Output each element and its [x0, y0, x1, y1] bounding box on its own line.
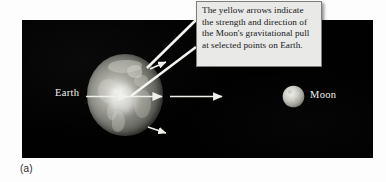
leader-line-top: [147, 20, 196, 68]
callout-box: The yellow arrows indicate the strength …: [196, 1, 322, 67]
arrow-bottom: [148, 127, 166, 133]
figure-caption: (a): [20, 163, 33, 174]
leader-line-center: [131, 47, 196, 96]
moon-label: Moon: [310, 89, 336, 100]
gravity-arrows: [86, 62, 222, 133]
earth-label: Earth: [55, 87, 79, 98]
callout-leader-lines: [131, 20, 196, 96]
figure-root: The yellow arrows indicate the strength …: [0, 0, 386, 182]
moon-body: [283, 86, 305, 108]
callout-text: The yellow arrows indicate the strength …: [202, 5, 317, 51]
